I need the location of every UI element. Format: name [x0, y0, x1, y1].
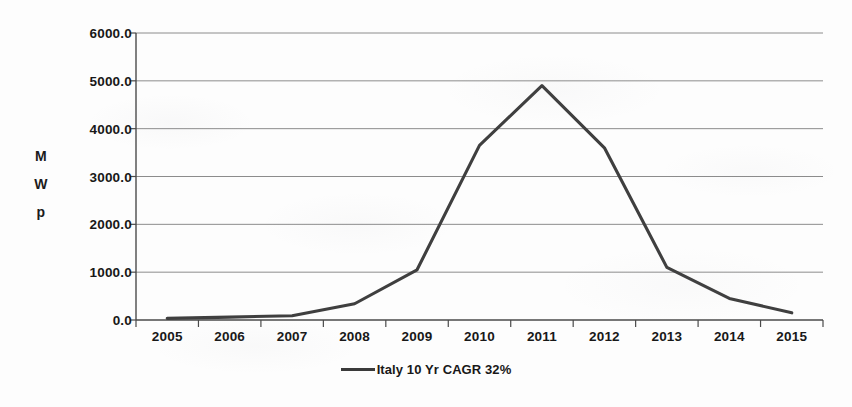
x-axis-tick-label: 2012: [572, 329, 636, 344]
legend-line-marker-icon: [341, 368, 375, 371]
chart-legend: Italy 10 Yr CAGR 32%: [0, 362, 852, 377]
legend-entry-italy[interactable]: Italy 10 Yr CAGR 32%: [341, 362, 512, 377]
x-axis-tick-label: 2014: [697, 329, 761, 344]
y-axis-tick-label: 1000.0: [38, 265, 132, 280]
x-axis-tick-label: 2010: [448, 329, 512, 344]
y-axis-tick-label: 4000.0: [38, 121, 132, 136]
x-axis-tick-label: 2008: [323, 329, 387, 344]
x-axis-tick-labels: 2005200620072008200920102011201220132014…: [0, 329, 852, 353]
x-axis-tick-label: 2015: [760, 329, 824, 344]
y-axis-tick-label: 5000.0: [38, 73, 132, 88]
x-axis-tick-label: 2007: [260, 329, 324, 344]
x-axis-tick-label: 2013: [635, 329, 699, 344]
y-axis-tick-label: 3000.0: [38, 169, 132, 184]
y-axis-tick-label: 6000.0: [38, 26, 132, 41]
y-axis-tick-label: 0.0: [38, 313, 132, 328]
x-axis-tick-marks: [136, 320, 823, 327]
data-series-line-italy: [167, 86, 792, 319]
x-axis-tick-label: 2011: [510, 329, 574, 344]
legend-entry-label: Italy 10 Yr CAGR 32%: [377, 362, 512, 377]
x-axis-tick-label: 2006: [198, 329, 262, 344]
chart-figure: M W p 0.01000.02000.03000.04000.05000.06…: [0, 0, 852, 407]
x-axis-tick-label: 2005: [135, 329, 199, 344]
y-axis-tick-label: 2000.0: [38, 217, 132, 232]
x-axis-tick-label: 2009: [385, 329, 449, 344]
gridlines: [136, 33, 823, 272]
